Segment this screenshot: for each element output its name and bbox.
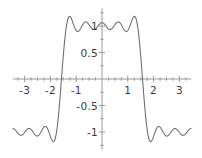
x-tick-label: 1	[124, 85, 131, 96]
fourier-square-wave-plot: -3-2-1123 10.5-0.5-1	[0, 0, 202, 158]
y-tick-label: 1	[91, 21, 98, 32]
x-tick-label: -1	[71, 85, 82, 96]
plot-canvas	[0, 0, 202, 158]
axes-group	[13, 9, 191, 150]
x-tick-label: -2	[45, 85, 56, 96]
x-tick-label: 2	[150, 85, 157, 96]
x-tick-label: -3	[19, 85, 30, 96]
y-tick-label: -0.5	[76, 100, 98, 111]
y-tick-label: -1	[87, 127, 98, 138]
x-tick-label: 3	[176, 85, 183, 96]
y-tick-label: 0.5	[80, 47, 98, 58]
